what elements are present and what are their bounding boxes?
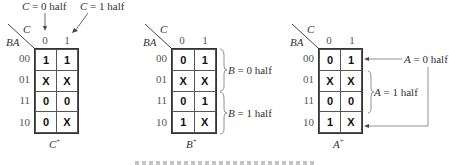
- b1-half-label: B = 1 half: [228, 107, 272, 119]
- cell: 0: [57, 91, 78, 112]
- col-var-label: C: [23, 23, 30, 35]
- cell: 0: [320, 50, 341, 71]
- map-title: C+: [49, 137, 60, 150]
- cell: 0: [173, 50, 195, 71]
- b0-half-label: B = 0 half: [228, 64, 272, 76]
- row-var-label: BA: [143, 36, 156, 48]
- row-label: 11: [145, 94, 167, 106]
- row-label: 01: [145, 73, 167, 85]
- clipped-caption: [135, 161, 315, 165]
- cell: 0: [36, 112, 57, 133]
- row-label: 11: [292, 94, 314, 106]
- cell: X: [36, 70, 57, 91]
- c1-half-label: C = 1 half: [80, 0, 124, 12]
- row-label: 11: [8, 94, 30, 106]
- cell: 1: [36, 50, 57, 71]
- col-label: 0: [324, 34, 334, 46]
- b1-bracket: [220, 92, 227, 134]
- row-label: 00: [145, 52, 167, 64]
- row-label: 10: [145, 116, 167, 128]
- map-title: B+: [186, 137, 197, 150]
- cell: 0: [341, 91, 362, 112]
- kmap-grid: 01 XX 01 1X: [171, 48, 217, 134]
- cell: X: [341, 70, 362, 91]
- cell: 1: [194, 50, 216, 71]
- row-label: 00: [292, 52, 314, 64]
- cell: X: [194, 112, 216, 133]
- c1-arrow: [75, 13, 88, 31]
- kmap-grid: 01 XX 00 1X: [318, 48, 363, 134]
- cell: X: [173, 70, 195, 91]
- row-label: 10: [292, 116, 314, 128]
- cell: 0: [173, 91, 195, 112]
- cell: X: [57, 70, 78, 91]
- cell: 1: [320, 112, 341, 133]
- row-label: 00: [8, 52, 30, 64]
- a1-half-label: A = 1 half: [374, 86, 418, 98]
- col-label: 0: [40, 34, 50, 46]
- map-title: A+: [333, 137, 344, 150]
- cell: X: [194, 70, 216, 91]
- col-var-label: C: [307, 23, 314, 35]
- cell: 1: [341, 50, 362, 71]
- a0-half-label: A = 0 half: [404, 53, 448, 65]
- cell: X: [341, 112, 362, 133]
- kmap-grid: 11 XX 00 0X: [34, 48, 79, 134]
- col-label: 0: [177, 34, 187, 46]
- col-label: 1: [200, 34, 210, 46]
- cell: 0: [320, 91, 341, 112]
- cell: 1: [57, 50, 78, 71]
- row-var-label: BA: [6, 36, 19, 48]
- cell: X: [57, 112, 78, 133]
- cell: X: [320, 70, 341, 91]
- col-label: 1: [347, 34, 357, 46]
- row-label: 10: [8, 116, 30, 128]
- col-var-label: C: [160, 23, 167, 35]
- c0-half-label: C = 0 half: [22, 0, 66, 12]
- cell: 1: [194, 91, 216, 112]
- b0-bracket: [220, 49, 227, 91]
- row-label: 01: [292, 73, 314, 85]
- row-label: 01: [8, 73, 30, 85]
- row-var-label: BA: [290, 36, 303, 48]
- col-label: 1: [62, 34, 72, 46]
- cell: 1: [173, 112, 195, 133]
- cell: 0: [36, 91, 57, 112]
